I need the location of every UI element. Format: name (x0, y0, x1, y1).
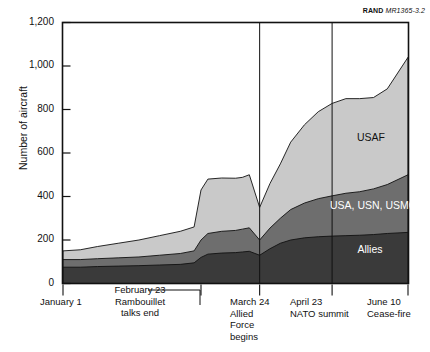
x-annotation-february-23-line2: Rambouillet (95, 296, 185, 308)
x-annotation-february-23-line1: February 23 (95, 284, 185, 296)
y-tick-label-600: 600 (12, 146, 54, 157)
rand-credit: RAND MR1365-3.2 (363, 7, 425, 14)
x-annotation-march-24-line4: begins (230, 331, 270, 343)
x-annotation-april-23-line1: April 23 (290, 296, 349, 308)
x-annotation-march-24: March 24 Allied Force begins (230, 296, 270, 342)
y-tick-label-0: 0 (12, 277, 54, 288)
y-tick-label-800: 800 (12, 103, 54, 114)
x-annotation-march-24-line2: Allied (230, 308, 270, 320)
figure-container: RAND MR1365-3.2 Number of aircraft 1,200… (0, 0, 430, 352)
rand-document-id: MR1365-3.2 (385, 7, 425, 14)
x-annotation-april-23: April 23 NATO summit (290, 296, 349, 319)
y-tick-label-1000: 1,000 (12, 59, 54, 70)
x-annotation-june-10: June 10 Cease-fire (367, 296, 411, 319)
x-annotation-february-23: February 23 Rambouillet talks end (95, 284, 185, 319)
y-axis-title: Number of aircraft (17, 63, 29, 193)
y-tick-label-400: 400 (12, 190, 54, 201)
x-annotation-june-10-line1: June 10 (367, 296, 411, 308)
x-annotation-march-24-line1: March 24 (230, 296, 270, 308)
x-annotation-february-23-line3: talks end (95, 307, 185, 319)
x-annotation-january-1: January 1 (40, 296, 82, 308)
area-series-group (63, 57, 408, 283)
x-annotation-april-23-line2: NATO summit (290, 308, 349, 320)
y-tick-label-200: 200 (12, 233, 54, 244)
y-tick-marks (63, 23, 71, 284)
x-annotation-january-1-line1: January 1 (40, 296, 82, 308)
y-tick-label-1200: 1,200 (12, 16, 54, 27)
x-annotation-june-10-line2: Cease-fire (367, 308, 411, 320)
rand-wordmark: RAND (363, 7, 384, 14)
x-annotation-march-24-line3: Force (230, 319, 270, 331)
